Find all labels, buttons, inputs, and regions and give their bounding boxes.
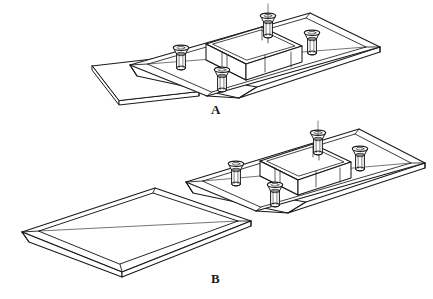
panel-b-cover-plate: [22, 188, 251, 277]
figure-page: A B: [0, 0, 433, 299]
panel-b-assembly: [22, 121, 425, 277]
panel-b-label: B: [211, 272, 220, 285]
panel-a-assembly: [92, 4, 380, 105]
assembly-drawing-svg: [0, 0, 433, 299]
panel-a-label: A: [211, 103, 221, 116]
